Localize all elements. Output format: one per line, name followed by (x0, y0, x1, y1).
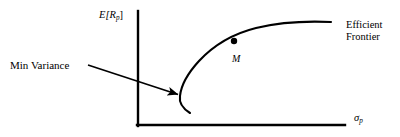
y-axis-label-base: E[R (99, 9, 116, 20)
market-portfolio-label: M (232, 53, 240, 64)
efficient-frontier-label: Efficient Frontier (346, 19, 383, 43)
y-axis-label: E[Rp] (99, 9, 123, 22)
market-portfolio-dot (231, 38, 237, 44)
efficient-frontier-curve (180, 22, 331, 113)
efficient-frontier-figure: E[Rp] σp Min Variance Efficient Frontier… (0, 0, 400, 137)
efficient-frontier-label-line2: Frontier (346, 31, 383, 43)
x-axis-label: σp (354, 112, 363, 125)
min-variance-label: Min Variance (10, 59, 69, 71)
min-variance-arrow (88, 65, 178, 95)
y-axis-label-close: ] (120, 9, 124, 20)
x-axis-label-subscript: p (359, 117, 363, 125)
efficient-frontier-label-line1: Efficient (346, 19, 383, 31)
